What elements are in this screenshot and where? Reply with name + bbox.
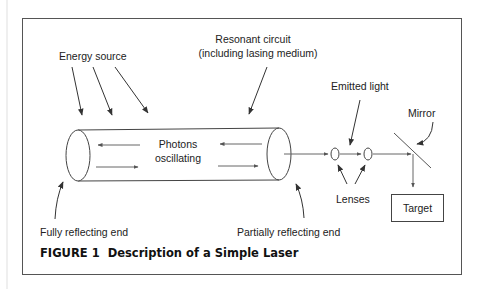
light-beam: [284, 154, 413, 187]
energy-source-label: Energy source: [59, 50, 127, 62]
fully-reflecting-end-label: Fully reflecting end: [40, 226, 128, 238]
mirror-label: Mirror: [408, 107, 436, 119]
partially-reflecting-end-label: Partially reflecting end: [237, 226, 340, 238]
laser-diagram: Energy source Resonant circuit (includin…: [0, 0, 486, 289]
lenses-label: Lenses: [336, 193, 370, 205]
figure-title: Description of a Simple Laser: [108, 246, 299, 260]
resonant-circuit-arrow: [249, 67, 267, 114]
fully-reflecting-end-arrow: [55, 182, 63, 219]
resonant-circuit-label-line1: Resonant circuit: [215, 33, 290, 45]
lenses-arrows: [338, 165, 365, 184]
target-label: Target: [403, 202, 432, 214]
energy-source-arrows: [72, 67, 148, 115]
emitted-light-label: Emitted light: [331, 80, 389, 92]
photons-label-line2: oscillating: [155, 152, 201, 164]
lens-1: [331, 148, 339, 160]
mirror-arrow: [417, 122, 433, 144]
fully-reflecting-end-mirror: [66, 130, 90, 181]
lens-2: [364, 148, 372, 160]
photons-label-line1: Photons: [159, 138, 198, 150]
figure-number: FIGURE 1: [40, 246, 100, 260]
figure-caption: FIGURE 1 Description of a Simple Laser: [40, 246, 299, 260]
emitted-light-arrow: [350, 100, 360, 145]
partially-reflecting-end-arrow: [296, 184, 304, 218]
resonant-circuit-label-line2: (including lasing medium): [198, 47, 317, 59]
